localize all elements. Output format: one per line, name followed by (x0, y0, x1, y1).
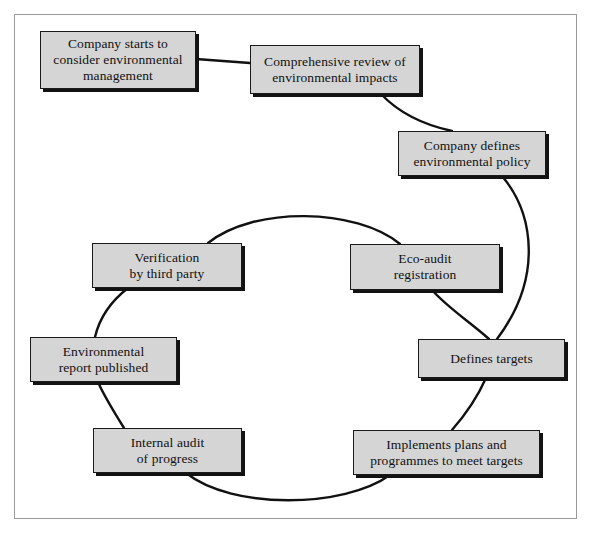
node-implements-plans[interactable]: Implements plans and programmes to meet … (353, 430, 540, 475)
node-label: Company starts to consider environmental… (47, 36, 189, 84)
node-eco-audit-registration[interactable]: Eco-audit registration (350, 244, 500, 290)
node-label: Company defines environmental policy (405, 138, 539, 170)
node-defines-targets[interactable]: Defines targets (418, 339, 565, 378)
node-label: Implements plans and programmes to meet … (360, 437, 533, 469)
node-company-defines-policy[interactable]: Company defines environmental policy (398, 131, 546, 176)
node-internal-audit[interactable]: Internal audit of progress (93, 428, 242, 473)
node-label: Comprehensive review of environmental im… (257, 54, 413, 86)
node-label: Eco-audit registration (357, 251, 493, 283)
node-label: Internal audit of progress (100, 435, 235, 467)
node-comprehensive-review[interactable]: Comprehensive review of environmental im… (250, 45, 420, 94)
node-label: Verification by third party (99, 250, 235, 282)
node-label: Defines targets (425, 351, 558, 367)
node-label: Environmental report published (37, 344, 170, 376)
node-environmental-report-published[interactable]: Environmental report published (30, 337, 177, 382)
node-verification-third-party[interactable]: Verification by third party (92, 243, 242, 288)
node-company-starts[interactable]: Company starts to consider environmental… (40, 31, 196, 89)
diagram-canvas: Company starts to consider environmental… (0, 0, 590, 535)
